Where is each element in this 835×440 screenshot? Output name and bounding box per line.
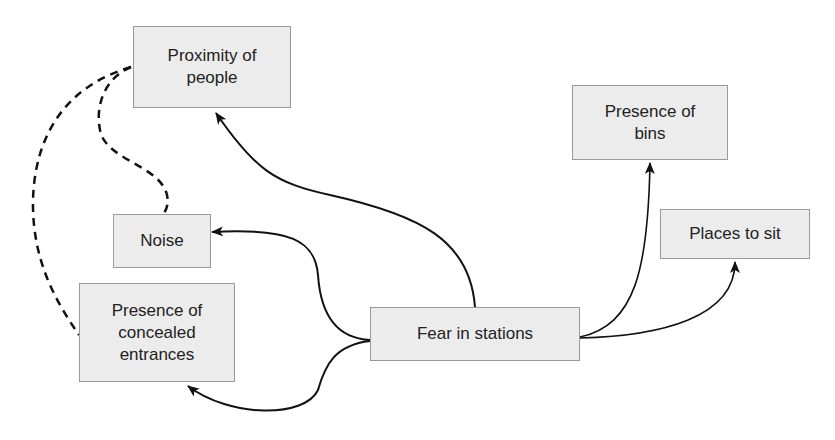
concept-map-diagram: Proximity of people Presence of bins Noi…	[0, 0, 835, 440]
edge-fear-to-places	[580, 262, 735, 338]
node-noise: Noise	[113, 214, 211, 268]
edge-fear-to-noise	[212, 231, 370, 340]
node-presence-of-bins: Presence of bins	[572, 85, 728, 160]
edge-fear-to-bins	[580, 163, 650, 337]
edge-fear-to-proximity	[216, 113, 475, 307]
node-places-to-sit: Places to sit	[660, 209, 810, 259]
node-proximity-of-people: Proximity of people	[133, 26, 291, 108]
node-presence-of-concealed-entrances: Presence of concealed entrances	[79, 283, 235, 382]
node-fear-in-stations: Fear in stations	[370, 307, 580, 361]
